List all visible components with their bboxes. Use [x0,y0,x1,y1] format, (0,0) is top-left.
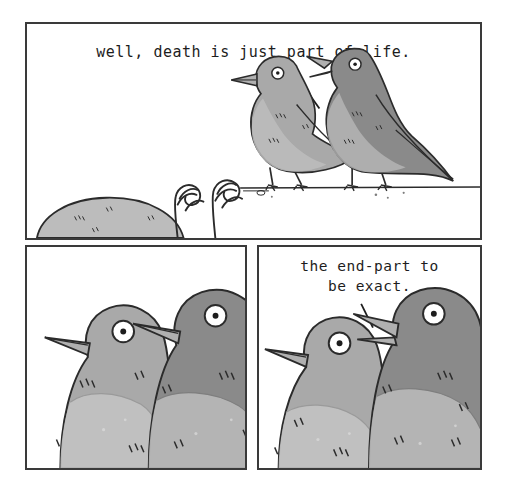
right-bird-beak-lower [310,71,333,77]
left-closeup-pupil [337,340,343,346]
left-closeup-pupil [120,329,126,335]
comic-panel-3: the end-part to be exact. [257,245,482,470]
fern-right [213,180,243,238]
right-closeup-belly [149,393,245,468]
ground-speck-a [375,194,378,197]
panel-3-artwork [259,247,480,468]
right-bird-pupil [353,62,357,66]
ground-speck-b [387,197,389,199]
comic-panel-1: well, death is just part of life. [25,22,482,240]
mound [37,198,184,238]
left-closeup-beak [45,337,90,355]
ground-speck-d [271,196,273,198]
comic-strip: well, death is just part of life. [0,0,507,490]
comic-panel-2 [25,245,247,470]
panel-1-artwork [27,24,480,238]
panel-2-artwork [27,247,245,468]
right-closeup-pupil [431,311,437,317]
ground-speck-c [403,192,405,194]
left-closeup-beak [265,349,308,367]
right-closeup-pupil [213,313,219,319]
right-bird-beak-upper [307,56,333,68]
left-bird-pupil [276,71,280,75]
